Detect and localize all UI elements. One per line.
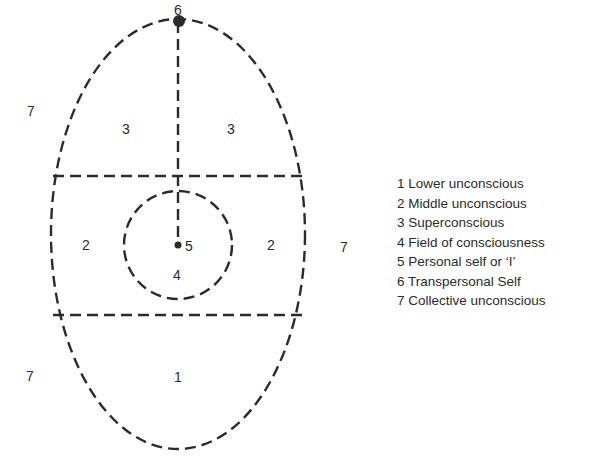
legend-item: 4 Field of consciousness [397,233,546,253]
label-collective-right: 7 [340,240,348,254]
legend-item: 7 Collective unconscious [397,291,546,311]
legend-item: 2 Middle unconscious [397,194,546,214]
label-personal-self: 5 [185,239,193,253]
label-lower-unconscious: 1 [174,370,182,384]
legend-item: 1 Lower unconscious [397,174,546,194]
label-field-of-consciousness: 4 [173,268,181,282]
label-transpersonal-self: 6 [174,3,182,17]
personal-self-dot [175,242,182,249]
label-superconscious-right: 3 [227,122,235,136]
label-collective-left-top: 7 [27,104,35,118]
label-middle-right: 2 [267,238,275,252]
label-superconscious-left: 3 [122,122,130,136]
legend-item: 3 Superconscious [397,213,546,233]
legend-item: 5 Personal self or ‘I’ [397,252,546,272]
label-middle-left: 2 [82,238,90,252]
legend: 1 Lower unconscious 2 Middle unconscious… [397,174,546,311]
label-collective-left-bottom: 7 [26,369,34,383]
legend-item: 6 Transpersonal Self [397,272,546,292]
